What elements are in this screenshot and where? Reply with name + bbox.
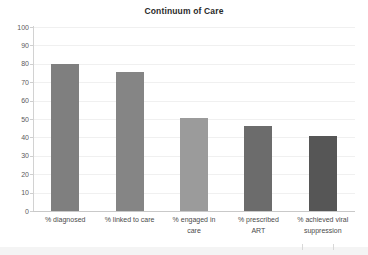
x-axis-category-label-line: care [159, 226, 229, 237]
y-axis-tick-label: 100 [3, 24, 29, 31]
y-axis-tick-mark [30, 64, 33, 65]
x-axis-category-label-line: ART [223, 226, 293, 237]
y-axis-tick-mark [30, 156, 33, 157]
x-axis-category-label-line: % diagnosed [30, 215, 100, 226]
x-axis-category-label-line: % achieved viral [288, 215, 358, 226]
chart-title: Continuum of Care [0, 6, 368, 16]
x-axis-category-label-line: % engaged in [159, 215, 229, 226]
y-axis-tick-label: 20 [3, 171, 29, 178]
bottom-edge-tick-right [333, 244, 334, 250]
x-axis-line [33, 211, 355, 212]
y-axis-tick-label: 60 [3, 97, 29, 104]
y-axis-tick-mark [30, 101, 33, 102]
y-axis-tick-label: 70 [3, 79, 29, 86]
y-axis-tick-label: 90 [3, 42, 29, 49]
y-axis-tick-mark [30, 119, 33, 120]
y-axis-tick-mark [30, 211, 33, 212]
bottom-edge-strip [0, 247, 368, 255]
x-axis-category-label: % linked to care [94, 215, 164, 226]
y-axis-tick-mark [30, 82, 33, 83]
y-axis-tick-mark [30, 174, 33, 175]
y-axis-tick-label: 30 [3, 152, 29, 159]
bar [51, 64, 79, 211]
y-axis-tick-label: 40 [3, 134, 29, 141]
y-axis-tick-label: 50 [3, 116, 29, 123]
y-axis-tick-mark [30, 193, 33, 194]
bar [180, 118, 208, 211]
y-axis-tick-label: 80 [3, 60, 29, 67]
bar-chart: Continuum of Care 0102030405060708090100… [0, 0, 368, 255]
bar [244, 126, 272, 211]
x-axis-category-label: % engaged incare [159, 215, 229, 236]
y-axis-tick-mark [30, 27, 33, 28]
y-axis-tick-labels: 0102030405060708090100 [0, 0, 29, 255]
y-axis-tick-label: 0 [3, 208, 29, 215]
bars-layer [33, 27, 355, 211]
bar [116, 72, 144, 211]
y-axis-tick-mark [30, 137, 33, 138]
x-axis-category-label-line: suppression [288, 226, 358, 237]
x-axis-category-label-line: % prescribed [223, 215, 293, 226]
x-axis-category-labels: % diagnosed% linked to care% engaged inc… [33, 215, 355, 251]
x-axis-category-label: % achieved viralsuppression [288, 215, 358, 236]
y-axis-tick-label: 10 [3, 189, 29, 196]
bottom-edge-tick-left [302, 244, 303, 250]
y-axis-tick-mark [30, 45, 33, 46]
x-axis-category-label: % diagnosed [30, 215, 100, 226]
x-axis-category-label-line: % linked to care [94, 215, 164, 226]
x-axis-category-label: % prescribedART [223, 215, 293, 236]
bar [309, 136, 337, 211]
